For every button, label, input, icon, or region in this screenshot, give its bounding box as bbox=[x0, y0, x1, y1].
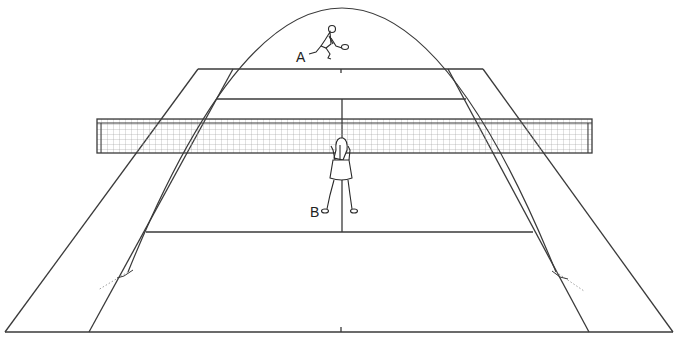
right-doubles-sideline bbox=[483, 69, 673, 332]
player-b-label: B bbox=[310, 205, 319, 219]
left-singles-sideline bbox=[89, 69, 233, 332]
right-singles-sideline bbox=[448, 69, 589, 332]
court-svg bbox=[0, 0, 692, 351]
player-a-label: A bbox=[296, 50, 305, 64]
tennis-court-diagram: A B bbox=[0, 0, 692, 351]
trajectory-right-extension bbox=[556, 272, 584, 291]
court-lines bbox=[5, 69, 673, 332]
player-a-figure bbox=[309, 26, 349, 60]
left-doubles-sideline bbox=[5, 69, 198, 332]
